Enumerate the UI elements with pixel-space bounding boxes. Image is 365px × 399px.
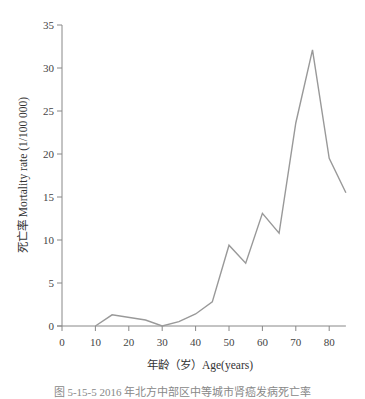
y-tick-label: 20 <box>43 148 55 160</box>
x-axis: 01020304050607080 <box>57 326 346 348</box>
y-tick-label: 35 <box>43 19 55 31</box>
x-tick-label: 40 <box>190 336 202 348</box>
x-axis-label: 年龄（岁）Age(years) <box>147 358 253 372</box>
x-tick-label: 50 <box>224 336 236 348</box>
y-tick-label: 30 <box>43 62 55 74</box>
figure-caption: 图 5-15-5 2016 年北方中部区中等城市肾癌发病死亡率 <box>0 383 365 399</box>
x-tick-label: 10 <box>90 336 102 348</box>
mortality-rate-line <box>95 50 346 326</box>
y-tick-label: 15 <box>43 191 55 203</box>
x-tick-label: 60 <box>257 336 269 348</box>
x-tick-label: 30 <box>157 336 169 348</box>
y-tick-label: 25 <box>43 105 55 117</box>
x-tick-label: 20 <box>123 336 135 348</box>
x-tick-label: 70 <box>290 336 302 348</box>
y-tick-label: 0 <box>49 320 55 332</box>
y-axis-label: 死亡率 Mortality rate (1/100 000) <box>16 97 30 253</box>
x-tick-label: 0 <box>59 336 65 348</box>
y-tick-label: 10 <box>43 234 55 246</box>
y-tick-label: 5 <box>49 277 55 289</box>
x-tick-label: 80 <box>324 336 336 348</box>
y-axis: 05101520253035 <box>43 19 62 332</box>
